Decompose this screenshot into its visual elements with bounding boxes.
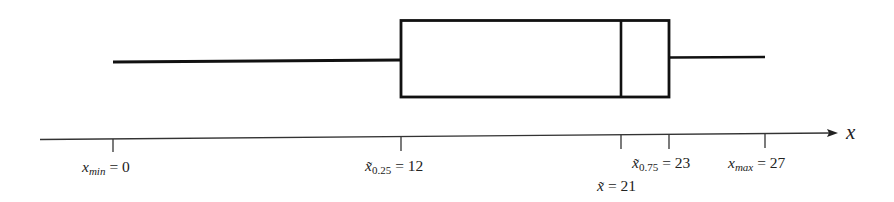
q3-label: x̃0.75= 23 [631,154,691,173]
axis-label: x [845,120,856,144]
left-whisker [113,60,401,62]
median-label: x̃= 21 [596,177,636,194]
box-plot-chart: x xmin= 0 x̃0.25= 12 x̃0.75= 23 xmax= 27… [0,0,894,202]
max-label: xmax= 27 [727,154,786,173]
right-whisker [669,57,765,58]
x-axis [40,133,830,140]
interquartile-box [401,21,669,98]
q1-label: x̃0.25= 12 [364,157,423,176]
min-label: xmin= 0 [81,158,130,177]
